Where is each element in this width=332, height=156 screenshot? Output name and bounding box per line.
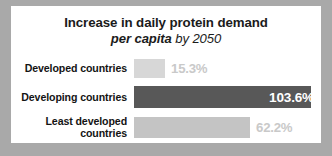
bar-row-least-developed-countries: Least developed countries 62.2% bbox=[11, 113, 321, 141]
screenshot-root: Increase in daily protein demand per cap… bbox=[0, 0, 332, 156]
chart-card: Increase in daily protein demand per cap… bbox=[11, 6, 321, 143]
chart-title-line-1: Increase in daily protein demand bbox=[11, 15, 321, 31]
bar-zone-developed-countries: 15.3% bbox=[134, 55, 321, 81]
bar-developed-countries bbox=[134, 59, 165, 78]
bar-row-developed-countries: Developed countries 15.3% bbox=[11, 55, 321, 81]
chart-title-tail: by 2050 bbox=[172, 31, 221, 46]
bar-label-line-1: Least developed bbox=[45, 115, 127, 127]
bar-least-developed-countries bbox=[134, 117, 250, 138]
bar-row-developing-countries: Developing countries 103.6% bbox=[11, 83, 321, 111]
bar-label-developed-countries: Developed countries bbox=[11, 62, 134, 74]
bar-label-line-1: Developed countries bbox=[25, 62, 127, 74]
chart-title-emphasis: per capita bbox=[111, 31, 172, 46]
bar-developing-countries: 103.6% bbox=[134, 86, 311, 108]
bar-value-developing-countries: 103.6% bbox=[269, 90, 314, 105]
bar-label-developing-countries: Developing countries bbox=[11, 91, 134, 103]
bar-chart-plot-area: Developed countries 15.3% Developing cou… bbox=[11, 52, 321, 143]
bar-value-developed-countries: 15.3% bbox=[165, 61, 207, 76]
bar-value-least-developed-countries: 62.2% bbox=[250, 120, 292, 135]
chart-title: Increase in daily protein demand per cap… bbox=[11, 15, 321, 47]
bar-zone-least-developed-countries: 62.2% bbox=[134, 113, 321, 141]
bar-zone-developing-countries: 103.6% bbox=[134, 83, 321, 111]
bar-label-least-developed-countries: Least developed countries bbox=[11, 115, 134, 139]
chart-title-line-2: per capita by 2050 bbox=[11, 31, 321, 47]
bar-label-line-2: countries bbox=[80, 127, 127, 139]
bar-label-line-1: Developing countries bbox=[21, 91, 127, 103]
